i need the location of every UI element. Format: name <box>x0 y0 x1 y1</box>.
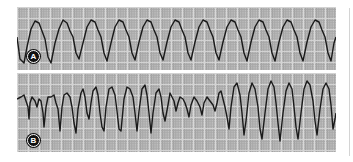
strip-label-b-badge: B <box>27 134 40 147</box>
ecg-strip-b: B <box>17 73 336 152</box>
page-edge-divider <box>349 8 350 156</box>
ecg-grid-b <box>17 73 336 152</box>
ecg-grid-a <box>17 7 336 70</box>
ecg-strip-a: A <box>17 7 336 70</box>
strip-label-a-badge: A <box>27 50 40 63</box>
